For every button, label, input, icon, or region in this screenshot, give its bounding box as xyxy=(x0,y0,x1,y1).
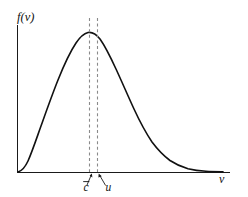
marker-label-rms-speed: u xyxy=(106,181,112,193)
x-axis-label: v xyxy=(219,172,225,186)
distribution-curve xyxy=(19,32,224,171)
y-axis-label: f(v) xyxy=(17,10,34,24)
speed-distribution-figure: f(v) v c u xyxy=(0,0,248,197)
marker-label-mean-speed: c xyxy=(84,181,89,193)
